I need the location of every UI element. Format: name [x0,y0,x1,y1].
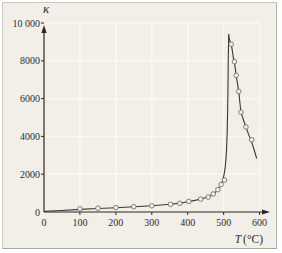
data-point [114,205,119,210]
x-tick-label: 0 [42,217,47,228]
y-tick-label: 2000 [20,169,40,180]
x-axis-title: T(°C) [235,233,263,246]
data-point [96,206,101,211]
data-point [222,178,227,183]
data-point [132,204,137,209]
data-point [219,182,224,187]
y-tick-label: 8000 [20,55,40,66]
y-axis-arrowhead-icon [41,25,46,33]
x-tick-label: 300 [144,217,159,228]
data-point [178,201,183,206]
y-tick-label: 4000 [20,131,40,142]
data-point [211,192,216,197]
x-tick-label: 400 [180,217,195,228]
data-point [216,187,221,192]
x-tick-label: 500 [216,217,231,228]
x-tick-label: 600 [252,217,267,228]
data-point [206,195,211,200]
data-point [249,138,254,143]
x-tick-label: 100 [72,217,87,228]
data-point [236,89,241,94]
data-point [78,207,83,212]
data-point [229,42,234,47]
data-point [239,110,244,115]
x-axis-unit: (°C) [243,233,263,245]
y-tick-label: 10 000 [13,18,41,29]
x-axis-arrowhead-icon [262,210,270,215]
data-point [187,199,192,204]
y-axis-title: κ [43,2,49,16]
y-tick-label: 0 [35,207,40,218]
y-tick-label: 6000 [20,93,40,104]
x-axis-symbol: T [235,233,243,245]
data-point [198,197,203,202]
data-point [232,59,237,64]
data-point [234,73,239,78]
x-tick-label: 200 [108,217,123,228]
data-point [168,202,173,207]
data-point [244,125,249,130]
data-point [150,204,155,209]
chart-plot: 01002003004005006000200040006000800010 0… [0,0,282,253]
